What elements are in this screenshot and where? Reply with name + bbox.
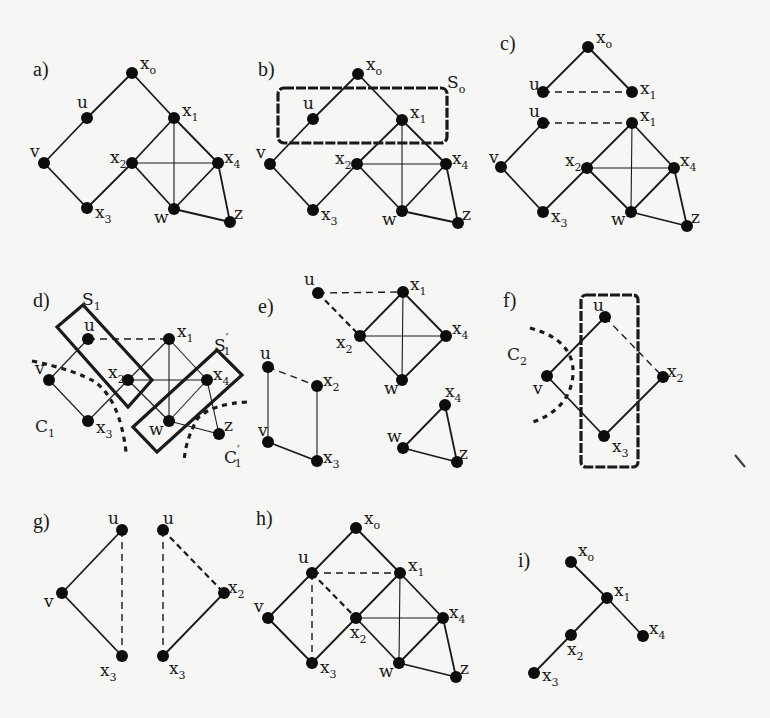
node-label-f-x2: x2	[667, 361, 684, 385]
node-label-h-x0: xo	[364, 508, 381, 532]
node-d-x1	[163, 333, 175, 345]
node-label-g-v: v	[43, 591, 54, 611]
node-e-x1	[397, 286, 409, 298]
node-c-x1T	[626, 86, 638, 98]
node-label-a-w: w	[154, 207, 169, 227]
edge-e-u2-x2b	[268, 367, 317, 386]
node-g-x3R	[157, 650, 169, 662]
edge-e-v-x3	[268, 442, 317, 461]
node-label-f-u: u	[593, 295, 604, 315]
node-label-c-x2: x2	[565, 150, 582, 174]
node-h-x0	[350, 522, 362, 534]
node-label-e-wb: w	[387, 426, 402, 446]
edge-e-x4b-z	[445, 405, 457, 462]
cut-label-C1p: C′1	[224, 444, 242, 470]
edge-f-x3-x2	[604, 377, 663, 436]
node-label-h-x3: x3	[320, 657, 337, 681]
node-label-i-x1: x1	[614, 580, 631, 604]
node-a-w	[168, 203, 180, 215]
node-h-v	[262, 612, 274, 624]
node-b-x3	[307, 204, 319, 216]
node-a-x4	[212, 157, 224, 169]
edge-a-v-x3	[44, 163, 87, 208]
node-label-c-x1T: x1	[640, 78, 657, 102]
edge-i-x0-x1	[571, 562, 607, 598]
edge-h-u-x2	[312, 573, 356, 618]
panel-label-d: d)	[33, 289, 50, 312]
node-label-a-z: z	[234, 203, 243, 223]
edge-c-x2-w	[587, 168, 631, 212]
node-label-g-x3L: x3	[100, 660, 117, 684]
node-label-c-x0: xo	[596, 27, 613, 51]
node-label-i-x4: x4	[649, 618, 666, 642]
node-label-c-x1B: x1	[640, 105, 657, 129]
node-a-x0	[126, 67, 138, 79]
edge-f-u-v	[547, 317, 605, 376]
graph-figure: a)xoux1vx2x4x3wzb)xoux1vx2x4x3wzSoc)xoux…	[0, 0, 770, 718]
node-b-x0	[352, 68, 364, 80]
node-label-e-x1: x1	[410, 274, 427, 298]
set-label-S1: S1	[82, 289, 101, 313]
edge-h-x1-x4	[400, 573, 443, 618]
node-b-x4	[440, 158, 452, 170]
node-label-c-z: z	[691, 207, 700, 227]
node-label-i-x0: xo	[578, 540, 595, 564]
edge-a-x2-x1	[132, 118, 174, 163]
edge-a-w-z	[174, 209, 230, 222]
node-a-v	[38, 157, 50, 169]
edge-e-u-x1	[318, 292, 403, 293]
node-label-d-v: v	[34, 358, 45, 378]
edge-d-v-x3	[49, 380, 88, 421]
edge-h-x1-w	[399, 573, 400, 663]
node-label-b-x1: x1	[410, 102, 427, 126]
node-label-e-x4: x4	[452, 318, 469, 342]
node-d-x3	[82, 415, 94, 427]
node-a-x3	[81, 202, 93, 214]
edge-c-x1B-w	[631, 123, 632, 212]
node-c-x3	[537, 206, 549, 218]
edge-c-x4-z	[674, 168, 687, 226]
node-g-x3L	[116, 650, 128, 662]
node-i-x1	[601, 592, 613, 604]
node-c-x1B	[626, 117, 638, 129]
node-label-a-v: v	[29, 141, 40, 161]
node-label-g-x3R: x3	[169, 658, 186, 682]
edge-e-x2-x1	[360, 292, 403, 336]
edge-h-v-x3	[268, 618, 312, 663]
node-label-i-x2: x2	[567, 639, 584, 663]
edge-h-w-z	[399, 663, 456, 677]
edge-c-uB-v	[501, 123, 543, 167]
node-b-x2	[351, 158, 363, 170]
node-label-e-u2: u	[260, 343, 271, 363]
node-label-e-v: v	[257, 420, 268, 440]
edge-c-v-x3	[501, 167, 543, 212]
edge-g-x2-x3R	[163, 593, 224, 656]
edge-d-w-z	[169, 421, 219, 434]
edge-g-v-x3L	[62, 593, 122, 656]
node-h-w	[393, 657, 405, 669]
node-b-x1	[396, 114, 408, 126]
edge-h-x4-w	[399, 618, 443, 663]
node-b-w	[396, 205, 408, 217]
node-label-b-x0: xo	[366, 54, 383, 78]
node-label-e-z: z	[459, 443, 468, 463]
panel-label-g: g)	[33, 510, 50, 533]
node-label-a-u: u	[77, 92, 88, 112]
edge-h-x2-x1	[356, 573, 400, 618]
node-c-x0	[582, 41, 594, 53]
node-e-x2b	[311, 380, 323, 392]
node-a-u	[81, 112, 93, 124]
node-label-f-v: v	[532, 378, 543, 398]
node-label-h-w: w	[379, 661, 394, 681]
edge-e-wb-z	[403, 448, 457, 462]
node-label-a-x0: xo	[140, 53, 157, 77]
edge-c-x1B-x4	[632, 123, 674, 168]
node-label-c-v: v	[488, 147, 499, 167]
edge-a-x1-x4	[174, 118, 218, 163]
edge-g-uL-v	[62, 530, 122, 593]
node-e-x2	[354, 330, 366, 342]
edge-e-x2-w	[360, 336, 402, 380]
node-label-h-x1: x1	[408, 555, 425, 579]
node-label-d-x2: x2	[108, 362, 125, 386]
node-b-u	[307, 113, 319, 125]
